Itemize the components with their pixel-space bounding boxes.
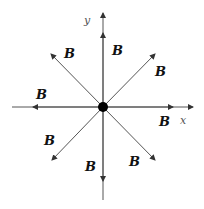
y-axis-label: y: [83, 14, 91, 27]
x-axis-label: x: [180, 114, 187, 127]
arrow-upleft: [51, 54, 103, 107]
field-label-upright: B: [154, 64, 166, 79]
field-label-down: B: [84, 159, 96, 174]
field-label-downright: B: [128, 154, 140, 169]
field-label-upleft: B: [63, 46, 75, 61]
field-label-left: B: [35, 87, 47, 102]
arrow-downleft: [52, 107, 103, 160]
point-charge: [98, 102, 108, 112]
field-label-right: B: [158, 114, 170, 129]
field-label-downleft: B: [43, 133, 55, 148]
arrow-upright: [103, 54, 155, 107]
arrow-downright: [103, 107, 155, 160]
field-diagram: y x B B B B B B B B: [0, 0, 204, 209]
field-label-up: B: [111, 43, 123, 58]
